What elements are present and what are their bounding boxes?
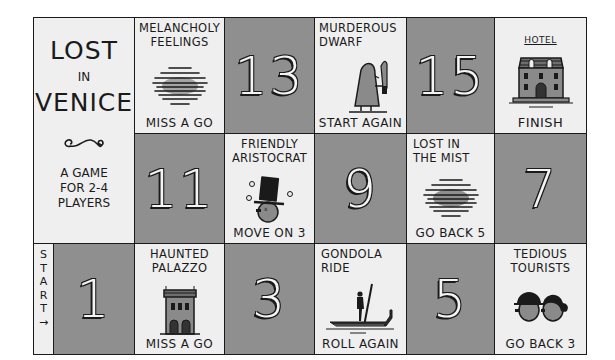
square-action: GO BACK 3 — [495, 337, 586, 351]
square-title: HAUNTED PALAZZO — [139, 247, 220, 275]
svg-text:x: x — [264, 205, 268, 212]
palazzo-icon — [160, 284, 200, 340]
square-number: 9 — [315, 159, 406, 219]
square-tedious-tourists[interactable]: TEDIOUS TOURISTS GO BACK 3 — [494, 243, 587, 355]
square-hotel-finish[interactable]: HOTEL FINISH — [494, 17, 587, 134]
square-haunted-palazzo[interactable]: HAUNTED PALAZZO MISS A GO — [134, 243, 225, 355]
start-letter: A — [34, 275, 53, 289]
square-friendly-aristocrat[interactable]: FRIENDLY ARISTOCRAT x MOVE ON 3 — [224, 133, 315, 244]
square-title: MELANCHOLY FEELINGS — [139, 21, 220, 49]
square-number: 7 — [495, 159, 586, 219]
hotel-icon — [509, 46, 573, 112]
square-7[interactable]: 7 — [494, 133, 587, 244]
game-title-line-2: IN — [34, 70, 134, 84]
gondola-icon — [324, 282, 398, 342]
game-title-line-3: VENICE — [34, 88, 134, 117]
subtitle-line-1: A GAME — [34, 166, 134, 180]
square-11[interactable]: 11 — [134, 133, 225, 244]
start-letter: R — [34, 289, 53, 303]
mist-icon — [420, 176, 482, 224]
start-letter: T — [34, 302, 53, 316]
square-number: 13 — [225, 46, 314, 106]
square-title: MURDEROUS DWARF — [319, 21, 399, 49]
square-action: MOVE ON 3 — [225, 226, 314, 240]
square-3[interactable]: 3 — [224, 243, 315, 355]
square-number: 15 — [407, 46, 494, 106]
square-melancholy-feelings[interactable]: MELANCHOLY FEELINGS MISS A GO — [134, 17, 225, 134]
subtitle-line-3: PLAYERS — [34, 196, 134, 210]
square-action: MISS A GO — [135, 116, 224, 130]
subtitle-line-2: FOR 2-4 — [34, 181, 134, 195]
game-title-line-1: LOST — [34, 36, 134, 65]
aristocrat-icon: x — [244, 174, 296, 230]
square-9[interactable]: 9 — [314, 133, 407, 244]
title-panel: LOST IN VENICE A GAME FOR 2-4 PLAYERS — [33, 17, 135, 244]
square-action: GO BACK 5 — [407, 226, 494, 240]
square-action: ROLL AGAIN — [315, 337, 406, 351]
square-title: TEDIOUS TOURISTS — [499, 247, 582, 275]
square-number: 3 — [225, 269, 314, 329]
hotel-sign: HOTEL — [524, 35, 557, 45]
square-number: 11 — [135, 159, 224, 219]
square-15[interactable]: 15 — [406, 17, 495, 134]
start-letter: S — [34, 248, 53, 262]
square-13[interactable]: 13 — [224, 17, 315, 134]
square-number: 1 — [54, 269, 134, 329]
scribble-cloud-icon — [149, 64, 211, 112]
square-title: GONDOLA RIDE — [321, 247, 381, 275]
square-action: MISS A GO — [135, 337, 224, 351]
square-lost-in-the-mist[interactable]: LOST IN THE MIST GO BACK 5 — [406, 133, 495, 244]
square-5[interactable]: 5 — [406, 243, 495, 355]
square-action: START AGAIN — [315, 116, 406, 130]
square-title: FRIENDLY ARISTOCRAT — [229, 137, 310, 165]
start-arrow-icon: → — [34, 316, 53, 330]
square-action: FINISH — [495, 115, 586, 130]
square-1[interactable]: 1 — [53, 243, 135, 355]
dwarf-with-knife-icon — [347, 56, 393, 118]
square-title: LOST IN THE MIST — [413, 137, 483, 165]
tourists-icon — [509, 290, 573, 328]
swirl-ornament-icon — [34, 136, 134, 156]
square-number: 5 — [407, 269, 494, 329]
square-murderous-dwarf[interactable]: MURDEROUS DWARF START AGAIN — [314, 17, 407, 134]
start-label: S T A R T → — [34, 248, 53, 329]
square-gondola-ride[interactable]: GONDOLA RIDE ROLL AGAIN — [314, 243, 407, 355]
start-strip: S T A R T → — [33, 243, 54, 355]
start-letter: T — [34, 262, 53, 276]
